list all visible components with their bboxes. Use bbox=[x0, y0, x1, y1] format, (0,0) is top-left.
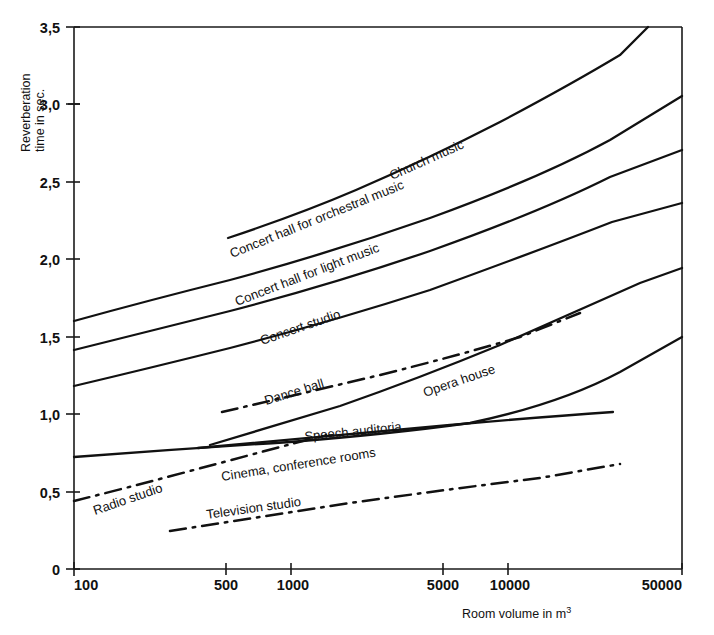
curve-label-television-studio: Television studio bbox=[205, 494, 302, 522]
y-tick-label-2-5: 2,5 bbox=[40, 175, 60, 191]
curve-label-cinema-conference-rooms: Cinema, conference rooms bbox=[220, 445, 377, 484]
x-axis-title-exponent: 3 bbox=[566, 605, 571, 615]
curve-label-church-music: Church music bbox=[387, 137, 466, 183]
curve-label-radio-studio: Radio studio bbox=[91, 480, 164, 518]
curve-label-concert-hall-orchestral: Concert hall for orchestral music bbox=[228, 177, 407, 261]
curve-labels-group: Church music Concert hall for orchestral… bbox=[91, 137, 497, 522]
y-axis-title-line2: time in sec. bbox=[33, 89, 47, 152]
y-tick-label-1-0: 1,0 bbox=[40, 407, 60, 423]
curve-concert-hall-orchestral bbox=[74, 96, 682, 321]
x-tick-label-1000: 1000 bbox=[277, 577, 309, 593]
curve-label-speech-auditoria: Speech auditoria bbox=[304, 419, 403, 444]
chart-canvas: 3,5 3,0 2,5 2,0 1,5 1,0 0,5 0 100 500 10… bbox=[0, 0, 714, 635]
x-tick-label-5000: 5000 bbox=[427, 577, 459, 593]
y-axis-title-line1: Reverberation bbox=[19, 73, 33, 152]
curve-church-music bbox=[228, 27, 648, 238]
curve-cinema-conference-rooms bbox=[74, 337, 682, 457]
curve-label-opera-house: Opera house bbox=[421, 361, 497, 400]
x-tick-label-500: 500 bbox=[214, 577, 238, 593]
y-tick-label-0-5: 0,5 bbox=[40, 485, 60, 501]
x-axis-title-text: Room volume in m bbox=[462, 607, 566, 621]
curve-opera-house bbox=[210, 268, 682, 445]
x-tick-label-100: 100 bbox=[74, 577, 98, 593]
y-axis-ticks bbox=[66, 27, 80, 569]
plot-frame bbox=[74, 27, 682, 569]
reverberation-time-chart: 3,5 3,0 2,5 2,0 1,5 1,0 0,5 0 100 500 10… bbox=[0, 0, 714, 635]
y-tick-label-0: 0 bbox=[52, 562, 60, 578]
x-axis-title: Room volume in m3 bbox=[462, 605, 571, 621]
curves-group bbox=[74, 27, 682, 531]
curve-concert-studio bbox=[74, 203, 682, 386]
curve-label-dance-hall: Dance hall bbox=[262, 376, 325, 408]
x-tick-label-50000: 50000 bbox=[642, 577, 682, 593]
y-tick-label-2-0: 2,0 bbox=[40, 252, 60, 268]
curve-label-concert-studio: Concert studio bbox=[258, 306, 342, 347]
y-tick-label-1-5: 1,5 bbox=[40, 330, 60, 346]
y-tick-label-3-5: 3,5 bbox=[40, 20, 60, 36]
x-axis-tick-labels: 100 500 1000 5000 10000 50000 bbox=[74, 577, 682, 593]
x-tick-label-10000: 10000 bbox=[490, 577, 530, 593]
